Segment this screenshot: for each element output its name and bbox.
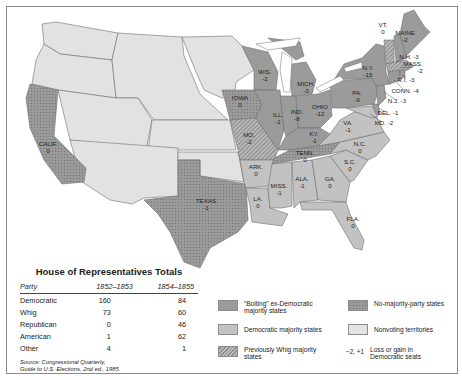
- table-row: Democratic 160 84: [20, 294, 198, 307]
- header-1852: 1852–1853: [76, 281, 137, 294]
- table-row: American 1 62: [20, 331, 198, 343]
- legend-label: “Bolting” ex-Democratic majority states: [244, 300, 322, 315]
- party-cell: Whig: [20, 306, 76, 318]
- bolting-swatch: [218, 300, 238, 311]
- party-cell: Democratic: [20, 294, 76, 307]
- svg-text:DEL. -1: DEL. -1: [377, 109, 399, 116]
- svg-text:VT.0: VT.0: [379, 21, 388, 35]
- legend-item-whig: Previously Whig majority states: [218, 346, 322, 361]
- table-row: Whig 73 60: [20, 306, 198, 318]
- legend-item-democratic: Democratic majority states: [218, 324, 344, 335]
- democratic-swatch: [218, 324, 238, 335]
- state-vermont: [384, 40, 394, 64]
- legend-item-nonvoting: Nonvoting territories: [348, 324, 462, 335]
- legend-item-no-majority: No-majority-party states: [348, 300, 452, 311]
- legend-item-bolting: “Bolting” ex-Democratic majority states: [218, 300, 322, 315]
- svg-text:R.I. -3: R.I. -3: [398, 76, 415, 83]
- svg-text:MD. -2: MD. -2: [375, 119, 394, 126]
- table-row: Republican 0 46: [20, 318, 198, 330]
- house-totals-panel: House of Representatives Totals Party 18…: [14, 266, 204, 373]
- lake-michigan: [280, 52, 292, 92]
- source-line: Source: Congressional Quarterly,: [20, 359, 204, 366]
- svg-text:CONN. -4: CONN. -4: [391, 87, 419, 94]
- source-note: Source: Congressional Quarterly, Guide t…: [20, 359, 204, 373]
- value-cell: 62: [137, 331, 198, 343]
- party-cell: Republican: [20, 318, 76, 330]
- svg-text:MASS.: MASS.: [403, 60, 423, 67]
- legend-item-seat-change: −2, +1 Loss or gain in Democratic seats: [342, 346, 448, 361]
- legend-label: No-majority-party states: [374, 300, 452, 307]
- value-cell: 46: [137, 318, 198, 330]
- svg-text:N.H. -3: N.H. -3: [399, 53, 419, 60]
- svg-text:N.Y.-15: N.Y.-15: [362, 64, 374, 78]
- legend-label: Democratic majority states: [244, 324, 344, 335]
- legend-label: Previously Whig majority states: [244, 346, 322, 361]
- svg-text:N.J. -3: N.J. -3: [388, 97, 407, 104]
- svg-text:-2: -2: [417, 67, 423, 74]
- value-cell: 0: [76, 318, 137, 330]
- table-row: Other 4 1: [20, 343, 198, 355]
- legend-label: Loss or gain in Democratic seats: [370, 346, 448, 361]
- value-cell: 160: [76, 294, 137, 307]
- state-new-jersey: [376, 84, 386, 106]
- seat-change-sample: −2, +1: [342, 346, 368, 357]
- value-cell: 60: [137, 306, 198, 318]
- whig-swatch: [218, 346, 238, 357]
- no-majority-swatch: [348, 300, 368, 311]
- party-cell: American: [20, 331, 76, 343]
- source-line: Guide to U.S. Elections, 2nd ed., 1985.: [20, 366, 204, 373]
- header-1854: 1854–1855: [137, 281, 198, 294]
- house-totals-table: Party 1852–1853 1854–1855 Democratic 160…: [20, 281, 198, 355]
- value-cell: 4: [76, 343, 137, 355]
- party-cell: Other: [20, 343, 76, 355]
- territory-kansas: [148, 120, 236, 150]
- value-cell: 1: [137, 343, 198, 355]
- territory-new-mexico: [70, 140, 178, 204]
- header-party: Party: [20, 281, 76, 294]
- value-cell: 84: [137, 294, 198, 307]
- value-cell: 1: [76, 331, 137, 343]
- legend-label: Nonvoting territories: [374, 324, 462, 335]
- table-header-row: Party 1852–1853 1854–1855: [20, 281, 198, 294]
- value-cell: 73: [76, 306, 137, 318]
- nonvoting-swatch: [348, 324, 368, 335]
- table-title: House of Representatives Totals: [14, 266, 204, 277]
